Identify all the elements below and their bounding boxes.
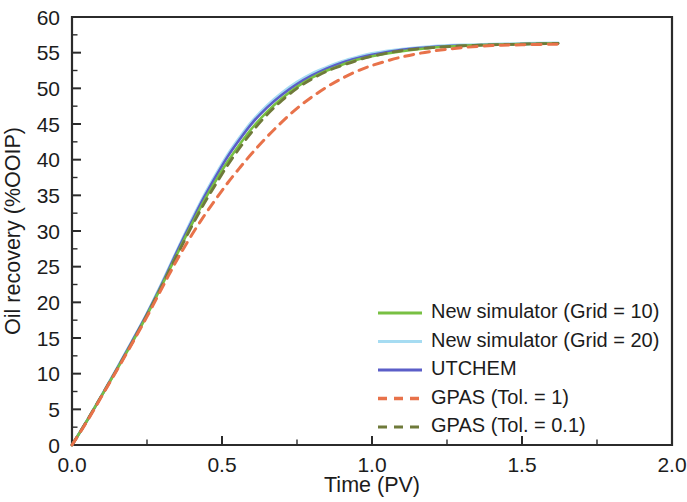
y-tick-label: 55 bbox=[37, 41, 60, 64]
y-tick-label: 35 bbox=[37, 184, 60, 207]
x-tick-label: 0.0 bbox=[57, 453, 86, 476]
y-tick-label: 60 bbox=[37, 6, 60, 29]
legend-label-3: GPAS (Tol. = 1) bbox=[431, 386, 569, 408]
axis-frame-path bbox=[72, 17, 672, 445]
series-line-1 bbox=[72, 43, 558, 445]
y-tick-label: 20 bbox=[37, 291, 60, 314]
series-line-0 bbox=[72, 43, 558, 445]
tick-marks bbox=[72, 17, 672, 445]
y-tick-label: 25 bbox=[37, 255, 60, 278]
x-axis-title: Time (PV) bbox=[324, 473, 420, 497]
x-tick-label: 2.0 bbox=[657, 453, 686, 476]
y-tick-label: 5 bbox=[48, 398, 60, 421]
tick-labels: 0510152025303540455055600.00.51.01.52.0 bbox=[37, 6, 687, 477]
legend-label-1: New simulator (Grid = 20) bbox=[431, 329, 659, 351]
plot-frame bbox=[72, 17, 672, 445]
chart-figure: 0510152025303540455055600.00.51.01.52.0 … bbox=[0, 0, 687, 502]
y-tick-label: 50 bbox=[37, 77, 60, 100]
legend-label-0: New simulator (Grid = 10) bbox=[431, 300, 659, 322]
series-line-4 bbox=[72, 43, 558, 445]
y-tick-label: 30 bbox=[37, 220, 60, 243]
y-tick-label: 45 bbox=[37, 113, 60, 136]
y-axis-title: Oil recovery (%OOIP) bbox=[1, 127, 25, 335]
x-tick-label: 1.5 bbox=[507, 453, 536, 476]
legend-label-2: UTCHEM bbox=[431, 357, 517, 379]
y-tick-label: 40 bbox=[37, 148, 60, 171]
chart-legend: New simulator (Grid = 10)New simulator (… bbox=[378, 300, 659, 436]
data-series bbox=[72, 43, 558, 445]
y-tick-label: 15 bbox=[37, 327, 60, 350]
legend-label-4: GPAS (Tol. = 0.1) bbox=[431, 414, 586, 436]
y-tick-label: 10 bbox=[37, 362, 60, 385]
oil-recovery-line-chart: 0510152025303540455055600.00.51.01.52.0 … bbox=[0, 0, 687, 502]
series-line-2 bbox=[72, 43, 558, 445]
x-tick-label: 0.5 bbox=[207, 453, 236, 476]
